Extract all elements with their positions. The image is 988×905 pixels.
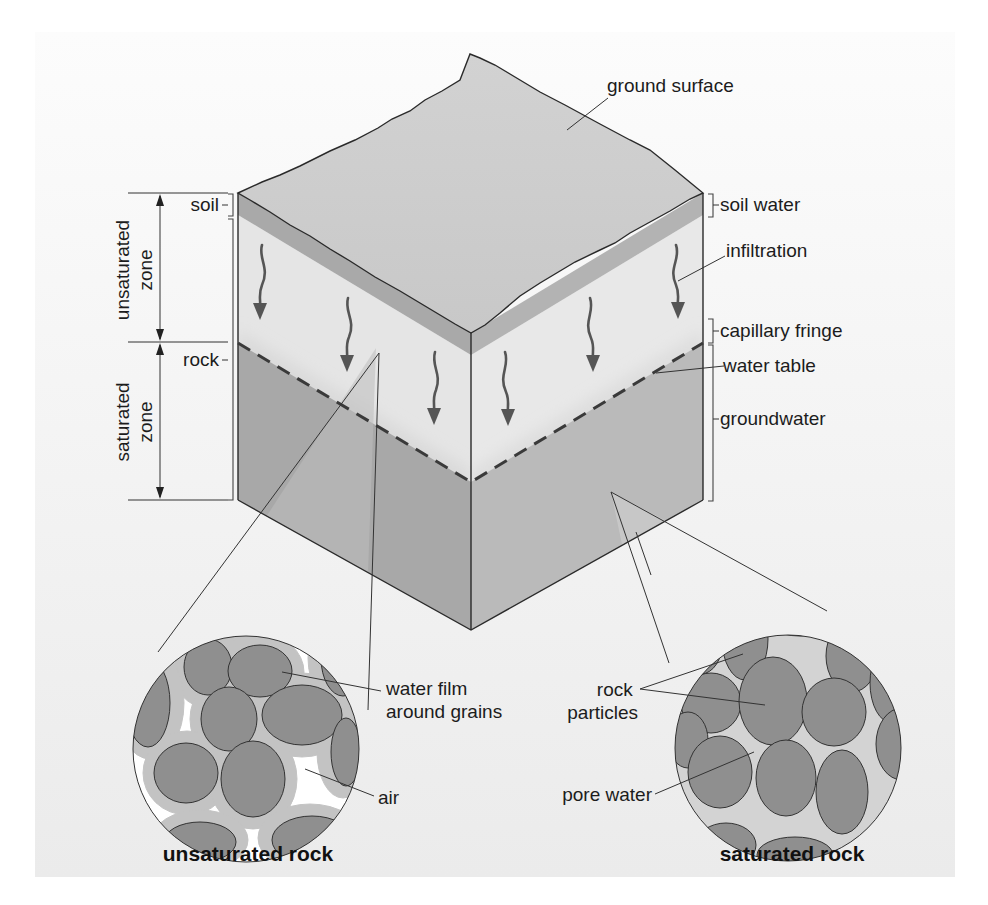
groundwater-label: groundwater — [720, 408, 826, 429]
unsaturated-rock-title: unsaturated rock — [163, 842, 334, 865]
saturated-rock-title: saturated rock — [720, 842, 865, 865]
rock-label: rock — [183, 349, 219, 370]
unsaturated-zone-label-line2: zone — [135, 249, 156, 290]
infiltration-label: infiltration — [726, 240, 807, 261]
ground-surface-label: ground surface — [607, 75, 734, 96]
air-label: air — [378, 787, 400, 808]
saturated-zone-label: saturated — [112, 382, 133, 461]
saturated-zone-label-line2: zone — [135, 401, 156, 442]
groundwater-zones-diagram: unsaturated zone saturated zone soil roc… — [0, 0, 988, 905]
capillary-fringe-label: capillary fringe — [720, 320, 843, 341]
soil-label: soil — [190, 194, 219, 215]
water-table-label: water table — [722, 355, 816, 376]
unsaturated-zone-label: unsaturated — [112, 220, 133, 320]
pore-water-label: pore water — [562, 784, 652, 805]
soil-water-label: soil water — [720, 194, 801, 215]
